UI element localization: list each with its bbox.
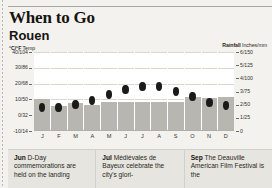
- chart-baseline: [34, 130, 234, 131]
- month-label-march: M: [67, 132, 84, 142]
- axis-tick-mark: [236, 118, 239, 119]
- axis-tick-label: 1/25: [240, 115, 250, 120]
- chart-column: [151, 52, 168, 131]
- axis-tick-label: 3/75: [240, 89, 250, 94]
- chart-column: [118, 52, 135, 131]
- month-axis: JFMAMJJASOND: [34, 132, 234, 142]
- right-axis-caption: Rainfall Inches/mm: [222, 42, 267, 48]
- axis-tick-mark: [29, 52, 32, 53]
- axis-tick-mark: [29, 68, 32, 69]
- chart-column: [68, 52, 85, 131]
- month-label-september: S: [167, 132, 184, 142]
- city-name: Rouen: [9, 28, 268, 43]
- chart-column: [84, 52, 101, 131]
- axis-tick-label: 40/104: [12, 50, 28, 55]
- axis-tick-mark: [29, 115, 32, 116]
- axis-tick-label: 10/50: [15, 97, 28, 102]
- note-item: Sep The Deauville American Film Festival…: [184, 150, 272, 188]
- month-label-april: A: [84, 132, 101, 142]
- axis-tick-mark: [236, 92, 239, 93]
- chart-column: [168, 52, 185, 131]
- temperature-marker: [106, 90, 113, 99]
- temperature-marker: [39, 103, 46, 112]
- axis-tick-label: 20/68: [15, 81, 28, 86]
- right-axis-caption-unit: Rainfall: [222, 42, 240, 48]
- climate-chart: [34, 52, 234, 131]
- month-label-may: M: [101, 132, 118, 142]
- note-month-label: Jul: [102, 154, 112, 161]
- rainfall-bar: [118, 102, 134, 131]
- chart-column: [185, 52, 202, 131]
- axis-tick-mark: [236, 52, 239, 53]
- left-axis-ticks: 40/10430/8620/6810/500/32-10/14: [2, 52, 32, 131]
- chart-column: [218, 52, 234, 131]
- right-axis-ticks: 6/1505/1254/1003/752/501/250: [236, 52, 272, 131]
- note-month-label: Sep: [191, 154, 203, 161]
- note-month-label: Jun: [14, 154, 26, 161]
- chart-column: [34, 52, 51, 131]
- rainfall-bar: [185, 97, 201, 131]
- temperature-marker: [189, 92, 196, 101]
- temperature-marker: [72, 100, 79, 109]
- month-label-january: J: [34, 132, 51, 142]
- temperature-marker: [173, 87, 180, 96]
- month-label-october: O: [184, 132, 201, 142]
- axis-tick-label: 0/32: [18, 113, 28, 118]
- page-root: When to Go Rouen °C/°F Temp Rainfall Inc…: [0, 0, 272, 188]
- month-label-november: N: [201, 132, 218, 142]
- axis-tick-mark: [29, 84, 32, 85]
- month-label-december: D: [217, 132, 234, 142]
- rainfall-bar: [84, 105, 100, 131]
- note-item: Jun D-Day commemorations are held on the…: [8, 150, 95, 188]
- axis-tick-label: 4/100: [240, 76, 253, 81]
- rainfall-bar: [168, 102, 184, 131]
- axis-tick-mark: [236, 78, 239, 79]
- event-notes: Jun D-Day commemorations are held on the…: [8, 149, 272, 188]
- note-text: Médiévales de Bayeux celebrate the city'…: [102, 154, 164, 178]
- month-label-february: F: [51, 132, 68, 142]
- axis-tick-mark: [236, 105, 239, 106]
- month-label-august: A: [151, 132, 168, 142]
- chart-column: [135, 52, 152, 131]
- axis-tick-mark: [29, 99, 32, 100]
- month-label-july: J: [134, 132, 151, 142]
- page-title: When to Go: [9, 9, 268, 27]
- temperature-marker: [156, 82, 163, 91]
- chart-column: [101, 52, 118, 131]
- right-axis-caption-text: Inches/mm: [241, 42, 267, 48]
- axis-tick-mark: [236, 131, 239, 132]
- axis-tick-label: 5/125: [240, 63, 253, 68]
- note-item: Jul Médiévales de Bayeux celebrate the c…: [95, 150, 183, 188]
- temperature-marker: [122, 85, 129, 94]
- rainfall-bar: [101, 102, 117, 131]
- chart-columns: [34, 52, 234, 131]
- chart-column: [202, 52, 219, 131]
- month-label-june: J: [117, 132, 134, 142]
- rainfall-bar: [151, 102, 167, 131]
- axis-tick-mark: [29, 131, 32, 132]
- axis-tick-label: 30/86: [15, 65, 28, 70]
- chart-column: [51, 52, 68, 131]
- axis-tick-label: 0: [240, 129, 243, 134]
- page-header: When to Go Rouen: [9, 9, 268, 43]
- axis-tick-label: -10/14: [13, 129, 28, 134]
- rainfall-bar: [135, 102, 151, 131]
- top-horizontal-rule: [8, 6, 272, 7]
- axis-tick-label: 6/150: [240, 50, 253, 55]
- axis-tick-label: 2/50: [240, 102, 250, 107]
- temperature-marker: [139, 82, 146, 91]
- axis-tick-mark: [236, 65, 239, 66]
- temperature-marker: [206, 98, 213, 107]
- temperature-marker: [55, 103, 62, 112]
